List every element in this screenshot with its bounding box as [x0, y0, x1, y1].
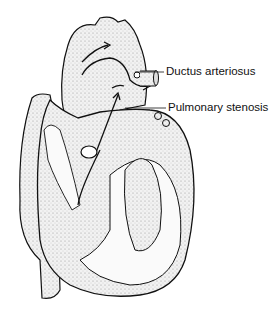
pulmonary-vein: [163, 120, 170, 127]
pulmonary-vein: [155, 113, 162, 120]
left-ventricle-chamber: [124, 159, 161, 251]
label-ductus-arteriosus: Ductus arteriosus: [166, 66, 255, 78]
pulmonary-valve-ring: [81, 146, 97, 158]
heart-diagram: [0, 0, 280, 313]
label-pulmonary-stenosis: Pulmonary stenosis: [168, 102, 268, 114]
